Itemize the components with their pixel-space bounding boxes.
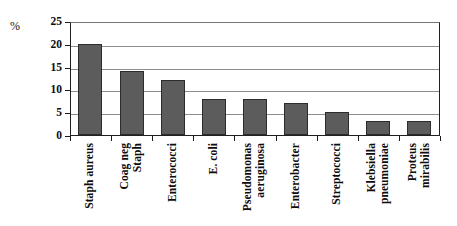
y-axis-tick-label: 25 <box>28 16 62 28</box>
x-axis-category-label: Streptococci <box>316 143 357 221</box>
gridline <box>71 69 439 70</box>
bar <box>161 80 185 135</box>
x-axis-tick-mark <box>234 136 235 141</box>
x-axis-category-label-line: Proteus <box>406 143 418 181</box>
x-axis-category-label: Klebsiellapneumoniae <box>357 143 398 221</box>
bar <box>243 99 267 135</box>
x-axis-category-label-line: pneumoniae <box>378 143 390 204</box>
x-axis-category-label: Enterococci <box>151 143 192 221</box>
bar <box>325 112 349 135</box>
x-axis-tick-mark <box>276 136 277 141</box>
x-axis-category-label-line: Pseudomonas <box>241 143 253 211</box>
x-axis-category-label-line: E. coli <box>207 143 219 174</box>
plot-area <box>70 22 440 136</box>
x-axis-category-label: Coag negStaph <box>110 143 151 221</box>
x-axis-category-label-line: mirabilis <box>419 143 431 188</box>
gridline <box>71 46 439 47</box>
x-axis-category-label-line: Enterococci <box>166 143 178 202</box>
x-axis-category-label-line: Streptococci <box>330 143 342 205</box>
bar <box>120 71 144 135</box>
x-axis-tick-mark <box>440 136 441 141</box>
x-axis-category-label-line: Staph aureus <box>83 143 95 209</box>
x-axis-tick-mark <box>399 136 400 141</box>
y-axis-tick-label: 20 <box>28 39 62 51</box>
y-axis-tick-label: 5 <box>28 107 62 119</box>
x-axis-category-label-line: Staph <box>131 143 143 172</box>
y-axis-tick-label: 10 <box>28 84 62 96</box>
x-axis-category-label: Staph aureus <box>69 143 110 221</box>
bar <box>202 99 226 135</box>
x-axis-category-label: Pseudomonasaeruginosa <box>233 143 274 221</box>
x-axis-category-label-line: aeruginosa <box>254 143 266 198</box>
x-axis-category-label-line: Coag neg <box>118 143 130 189</box>
x-axis-category-label: E. coli <box>192 143 233 221</box>
x-axis-tick-mark <box>152 136 153 141</box>
bar-chart: % 2520151050 Staph aureusCoag negStaphEn… <box>0 0 457 226</box>
x-axis-category-label: Enterobacter <box>274 143 315 221</box>
y-axis-tick-label: 15 <box>28 62 62 74</box>
bar <box>284 103 308 135</box>
y-axis-tick-label: 0 <box>28 130 62 142</box>
x-axis-category-label-line: Enterobacter <box>289 143 301 209</box>
x-axis-tick-mark <box>70 136 71 141</box>
x-axis-tick-mark <box>358 136 359 141</box>
bar <box>78 44 102 135</box>
x-axis-category-label-line: Klebsiella <box>365 143 377 193</box>
bar <box>407 121 431 135</box>
x-axis-tick-mark <box>317 136 318 141</box>
x-axis-tick-mark <box>111 136 112 141</box>
x-axis-tick-mark <box>193 136 194 141</box>
bar <box>366 121 390 135</box>
x-axis-category-label: Proteusmirabilis <box>398 143 439 221</box>
y-axis-unit-label: % <box>10 19 20 34</box>
